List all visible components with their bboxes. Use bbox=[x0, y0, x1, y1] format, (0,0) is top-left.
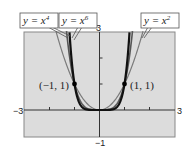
x-min-label: −3 bbox=[13, 106, 23, 116]
point-left bbox=[72, 82, 77, 87]
svg-text:y = x6: y = x6 bbox=[61, 14, 89, 26]
svg-text:y = x4: y = x4 bbox=[22, 14, 50, 26]
x-max-label: 3 bbox=[177, 106, 182, 116]
legend-x4: y = x4 bbox=[20, 13, 58, 28]
legend-x6: y = x6 bbox=[59, 13, 97, 28]
point-right bbox=[122, 82, 127, 87]
point-right-label: (1, 1) bbox=[130, 79, 154, 92]
legend-x2: y = x2 bbox=[141, 13, 179, 28]
point-left-label: (−1, 1) bbox=[39, 79, 69, 92]
y-min-label: −1 bbox=[95, 138, 105, 148]
chart: (−1, 1) (1, 1) −3 3 3 −1 y = x4 y = x6 y… bbox=[0, 0, 189, 150]
svg-text:y = x2: y = x2 bbox=[143, 14, 171, 26]
